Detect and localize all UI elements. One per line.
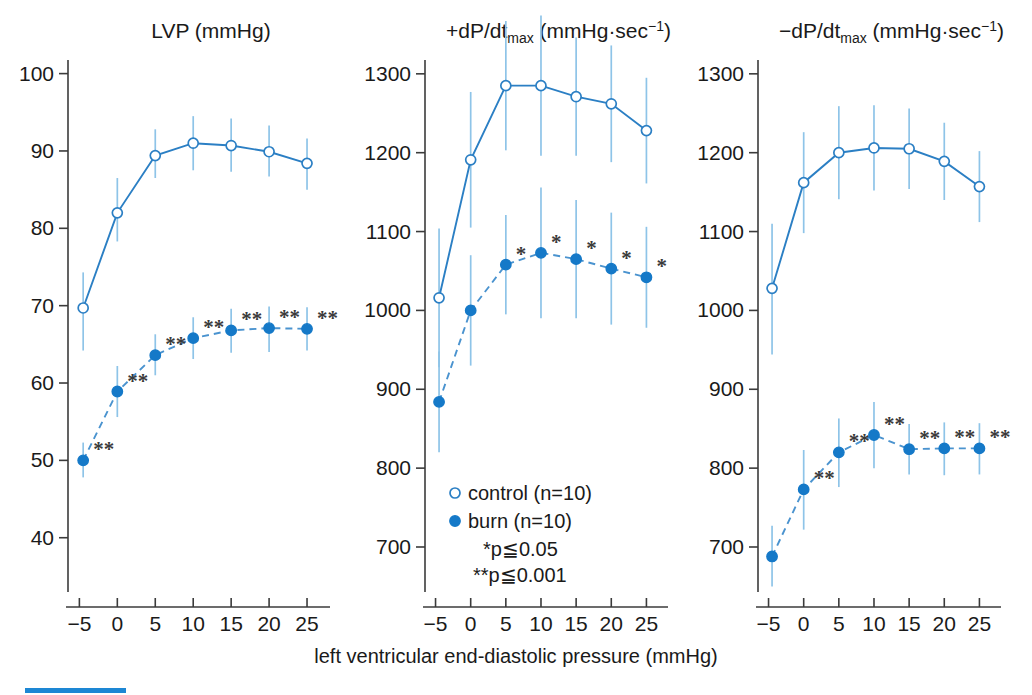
data-point-burn — [571, 254, 581, 264]
data-point-burn — [501, 259, 511, 269]
panel-title-dpdt_max_pos: +dP/dtmax (mmHg·sec−1) — [446, 18, 671, 46]
data-point-control — [302, 158, 312, 168]
y-tick-label-dpdt_max_pos-0: 700 — [376, 535, 411, 558]
x-tick-label-dpdt_max_pos-2: 5 — [500, 612, 512, 635]
data-point-control — [974, 182, 984, 192]
y-tick-label-dpdt_max_pos-6: 1300 — [364, 62, 411, 85]
y-tick-label-lvp-3: 70 — [31, 294, 54, 317]
legend-label-burn: burn (n=10) — [468, 510, 572, 532]
y-tick-label-dpdt_max_pos-3: 1000 — [364, 298, 411, 321]
x-tick-label-lvp-5: 20 — [257, 612, 280, 635]
significance-marker: ** — [279, 305, 300, 329]
series-lvp-burn: ************** — [78, 305, 338, 477]
series-lvp-control — [78, 116, 312, 350]
significance-marker: * — [656, 254, 667, 278]
legend-label-control: control (n=10) — [468, 482, 592, 504]
data-point-burn — [869, 430, 879, 440]
significance-marker: ** — [919, 426, 940, 450]
significance-marker: ** — [203, 315, 224, 339]
x-tick-label-dpdt_max_neg-1: 0 — [798, 612, 810, 635]
multi-panel-chart: LVP (mmHg)405060708090100−50510152025***… — [0, 0, 1032, 695]
x-tick-label-dpdt_max_neg-5: 20 — [933, 612, 956, 635]
y-tick-label-dpdt_max_neg-2: 900 — [709, 377, 744, 400]
legend-label-p05: *p≦0.05 — [483, 538, 558, 560]
page-accent-bar — [25, 688, 126, 693]
x-tick-label-dpdt_max_neg-3: 10 — [862, 612, 885, 635]
data-point-burn — [767, 551, 777, 561]
x-tick-label-dpdt_max_neg-0: −5 — [757, 612, 781, 635]
data-point-burn — [188, 333, 198, 343]
data-point-burn — [641, 272, 651, 282]
data-point-burn — [302, 324, 312, 334]
data-point-control — [606, 99, 616, 109]
x-tick-label-dpdt_max_pos-5: 20 — [600, 612, 623, 635]
significance-marker: * — [586, 236, 597, 260]
y-tick-label-lvp-5: 90 — [31, 139, 54, 162]
data-point-control — [501, 81, 511, 91]
significance-marker: ** — [241, 307, 262, 331]
significance-marker: ** — [93, 437, 114, 461]
data-point-burn — [112, 386, 122, 396]
x-axis-label: left ventricular end-diastolic pressure … — [314, 645, 717, 667]
significance-marker: ** — [954, 425, 975, 449]
x-tick-label-dpdt_max_neg-6: 25 — [968, 612, 991, 635]
data-point-control — [150, 151, 160, 161]
data-point-burn — [264, 323, 274, 333]
data-point-burn — [536, 248, 546, 258]
data-point-burn — [434, 397, 444, 407]
data-point-control — [112, 208, 122, 218]
panel-title-dpdt_max_neg: −dP/dtmax (mmHg·sec−1) — [779, 18, 1004, 46]
x-tick-label-lvp-0: −5 — [67, 612, 91, 635]
figure-root: LVP (mmHg)405060708090100−50510152025***… — [0, 0, 1032, 695]
y-tick-label-dpdt_max_pos-2: 900 — [376, 377, 411, 400]
panel-dpdt_max_neg: −dP/dtmax (mmHg·sec−1)700800900100011001… — [697, 18, 1010, 635]
series-dpdt_max_neg-burn: ************ — [767, 402, 1011, 587]
data-point-control — [536, 81, 546, 91]
data-point-control — [466, 155, 476, 165]
legend-label-p001: **p≦0.001 — [473, 564, 567, 586]
x-tick-label-lvp-3: 10 — [182, 612, 205, 635]
series-dpdt_max_pos-burn: ***** — [434, 187, 667, 452]
panel-lvp: LVP (mmHg)405060708090100−50510152025***… — [19, 19, 338, 635]
data-point-burn — [939, 443, 949, 453]
data-point-control — [226, 141, 236, 151]
x-tick-label-dpdt_max_neg-4: 15 — [897, 612, 920, 635]
data-point-control — [571, 92, 581, 102]
data-point-burn — [226, 325, 236, 335]
significance-marker: * — [516, 242, 527, 266]
data-point-burn — [834, 447, 844, 457]
x-tick-label-lvp-1: 0 — [111, 612, 123, 635]
significance-marker: ** — [989, 425, 1010, 449]
y-tick-label-dpdt_max_neg-6: 1300 — [697, 62, 744, 85]
significance-marker: ** — [127, 369, 148, 393]
significance-marker: * — [551, 230, 562, 254]
data-point-control — [869, 143, 879, 153]
data-point-burn — [904, 444, 914, 454]
x-tick-label-dpdt_max_pos-0: −5 — [424, 612, 448, 635]
x-tick-label-dpdt_max_pos-6: 25 — [635, 612, 658, 635]
y-tick-label-lvp-2: 60 — [31, 371, 54, 394]
data-point-burn — [798, 484, 808, 494]
y-tick-label-dpdt_max_pos-5: 1200 — [364, 141, 411, 164]
data-point-control — [78, 303, 88, 313]
data-point-control — [641, 126, 651, 136]
y-tick-label-lvp-4: 80 — [31, 216, 54, 239]
data-point-control — [434, 293, 444, 303]
data-point-control — [904, 144, 914, 154]
y-tick-label-dpdt_max_neg-5: 1200 — [697, 141, 744, 164]
x-tick-label-lvp-4: 15 — [219, 612, 242, 635]
legend: control (n=10)burn (n=10)*p≦0.05**p≦0.00… — [450, 482, 592, 586]
y-tick-label-dpdt_max_neg-0: 700 — [709, 535, 744, 558]
legend-marker-control — [450, 488, 460, 498]
panel-dpdt_max_pos: +dP/dtmax (mmHg·sec−1)700800900100011001… — [364, 15, 671, 635]
panel-title-lvp: LVP (mmHg) — [151, 19, 270, 42]
x-tick-label-dpdt_max_pos-4: 15 — [564, 612, 587, 635]
data-point-burn — [606, 263, 616, 273]
data-point-burn — [465, 305, 475, 315]
data-point-control — [939, 156, 949, 166]
significance-marker: * — [621, 246, 632, 270]
y-tick-label-lvp-0: 40 — [31, 526, 54, 549]
data-point-burn — [974, 443, 984, 453]
x-tick-label-dpdt_max_pos-3: 10 — [529, 612, 552, 635]
significance-marker: ** — [884, 412, 905, 436]
